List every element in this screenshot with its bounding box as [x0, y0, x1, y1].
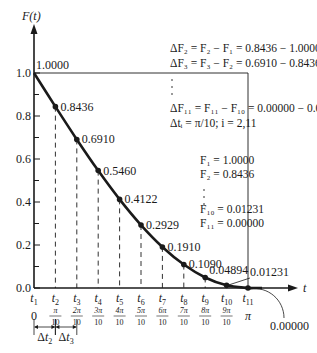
- equation-F1: F₁ = 1.0000: [200, 154, 255, 166]
- data-point: [245, 285, 251, 291]
- y-tick-label: 0.4: [16, 195, 31, 209]
- x-value-denominator: 10: [223, 318, 231, 327]
- y-tick-label: 1.0: [16, 66, 31, 80]
- x-value-numerator: 3π: [93, 306, 103, 315]
- x-value-denominator: 10: [94, 318, 102, 327]
- x-value-denominator: 10: [158, 318, 166, 327]
- equation-delta-t: Δtᵢ = π/10; i = 2,11: [170, 117, 257, 130]
- x-tick-label: t4: [95, 291, 102, 307]
- point-label: 0.01231: [250, 265, 289, 279]
- x-tick-label: t10: [221, 291, 232, 307]
- x-value-numerator: 9π: [223, 306, 232, 315]
- x-value-numerator: 2π: [73, 306, 82, 315]
- y-axis-title: F(t): [21, 9, 41, 23]
- point-label: 1.0000: [36, 58, 69, 72]
- ellipsis-dot: [171, 86, 173, 88]
- ellipsis-dot: [171, 79, 173, 81]
- x-tick-label: t3: [73, 291, 80, 307]
- dimension-label: Δt2: [37, 330, 52, 346]
- x-tick-label: t9: [202, 291, 209, 307]
- data-point: [95, 168, 101, 174]
- leader-line: [229, 278, 250, 285]
- x-tick-label: t6: [137, 291, 144, 307]
- y-axis-arrow-icon: [31, 24, 38, 34]
- x-tick-label: t11: [242, 291, 253, 307]
- x-tick-label: t5: [116, 291, 123, 307]
- point-label: 0.00000: [270, 319, 309, 333]
- x-tick-label: t7: [159, 291, 166, 307]
- x-tick-label: t2: [52, 291, 59, 307]
- x-value-denominator: 10: [137, 318, 145, 327]
- data-point: [53, 104, 59, 110]
- point-label: 0.5460: [103, 164, 136, 178]
- data-point: [224, 283, 230, 289]
- ellipsis-dot: [171, 93, 173, 95]
- y-tick-label: 0.6: [16, 152, 31, 166]
- x-value-numerator: 7π: [180, 306, 189, 315]
- y-tick-label: 0.8: [16, 109, 31, 123]
- point-label: 0.1910: [167, 240, 200, 254]
- ellipsis-dot: [203, 189, 205, 191]
- x-value-numerator: 8π: [201, 306, 210, 315]
- point-label: 0.2929: [146, 218, 179, 232]
- x-value: π: [245, 309, 252, 323]
- x-value-denominator: 10: [201, 318, 209, 327]
- dimension-label: Δt3: [59, 330, 74, 346]
- data-point: [160, 244, 166, 250]
- x-value-denominator: 10: [116, 318, 124, 327]
- point-label: 0.4122: [125, 192, 158, 206]
- ellipsis-dot: [203, 196, 205, 198]
- x-value-numerator: 6π: [158, 306, 167, 315]
- ellipsis-dot: [203, 203, 205, 205]
- chart: F(t)t0.00.20.40.60.81.01.00000.84360.691…: [0, 0, 317, 353]
- equation-delta-F3: ΔF₃ = F₃ − F₂ = 0.6910 − 0.8436: [170, 57, 317, 69]
- point-label: 0.8436: [60, 100, 93, 114]
- equation-F11: F₁₁ = 0.00000: [200, 217, 264, 229]
- x-axis-arrow-icon: [288, 285, 298, 292]
- equation-delta-F2: ΔF₂ = F₂ − F₁ = 0.8436 − 1.0000: [170, 42, 317, 54]
- data-point: [117, 197, 123, 203]
- leader-line: [250, 289, 284, 318]
- x-value-numerator: 5π: [137, 306, 146, 315]
- point-label: 0.6910: [82, 132, 115, 146]
- data-point: [138, 222, 144, 228]
- y-tick-label: 0.0: [16, 281, 31, 295]
- equation-F10: F₁₀ = 0.01231: [200, 203, 264, 215]
- equation-F2: F₂ = 0.8436: [200, 168, 255, 180]
- data-point: [181, 262, 187, 268]
- x-value-numerator: π: [53, 306, 58, 315]
- point-label: 0.04894: [209, 263, 248, 277]
- data-point: [202, 275, 208, 281]
- x-axis-title: t: [303, 281, 307, 295]
- x-tick-label: t8: [180, 291, 187, 307]
- data-point: [74, 137, 80, 143]
- x-value-numerator: 4π: [116, 306, 125, 315]
- equation-delta-F11: ΔF₁₁ = F₁₁ − F₁₀ = 0.00000 − 0.01231: [170, 102, 317, 114]
- y-tick-label: 0.2: [16, 238, 31, 252]
- x-tick-label: t1: [30, 291, 37, 307]
- x-value-denominator: 10: [180, 318, 188, 327]
